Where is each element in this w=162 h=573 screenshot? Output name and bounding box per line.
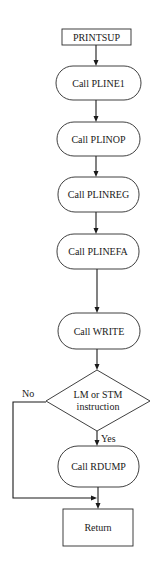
arrowhead-icon — [94, 60, 99, 66]
node-call-plinefa: Call PLINEFA — [57, 234, 139, 269]
node-call-plinop: Call PLINOP — [57, 122, 140, 156]
edge-label-yes: Yes — [101, 433, 116, 444]
arrowhead-icon — [94, 171, 99, 177]
arrowhead-icon — [94, 116, 99, 122]
node-label: Call PLINEFA — [68, 246, 128, 257]
node-label: Call PLINE1 — [72, 78, 125, 89]
edge-label-no: No — [22, 388, 34, 399]
node-call-write: Call WRITE — [58, 313, 140, 349]
node-label: Return — [84, 522, 111, 533]
node-label: Call WRITE — [74, 326, 125, 337]
node-call-pline1: Call PLINE1 — [56, 66, 141, 100]
node-decision-lm-stm: LM or STM instruction — [46, 370, 150, 431]
node-label: Call RDUMP — [71, 461, 126, 472]
flowchart: PRINTSUP Call PLINE1 Call PLINOP Call PL… — [0, 0, 162, 573]
decision-label-line2: instruction — [77, 401, 120, 412]
arrowhead-icon — [95, 307, 100, 313]
node-call-rdump: Call RDUMP — [58, 446, 139, 487]
arrowhead-icon — [94, 228, 99, 234]
arrowhead-icon — [95, 364, 100, 370]
node-call-plinreg: Call PLINREG — [58, 177, 139, 212]
arrowhead-icon — [96, 503, 101, 509]
node-label: PRINTSUP — [73, 32, 121, 43]
arrowhead-icon — [95, 440, 100, 446]
node-label: Call PLINREG — [68, 189, 129, 200]
node-label: Call PLINOP — [71, 134, 126, 145]
decision-label-line1: LM or STM — [74, 389, 123, 400]
node-printsup: PRINTSUP — [62, 29, 131, 45]
node-return: Return — [63, 509, 133, 546]
edges — [13, 45, 101, 509]
arrowhead-icon — [91, 496, 97, 501]
